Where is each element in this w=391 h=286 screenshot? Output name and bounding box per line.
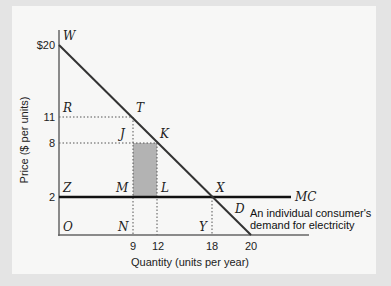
x-axis-label: Quantity (units per year) (131, 256, 249, 268)
point-d: D (234, 202, 245, 216)
x-tick-12: 12 (152, 240, 164, 252)
point-z: Z (62, 181, 72, 195)
point-y: Y (199, 220, 208, 234)
point-x: X (215, 181, 225, 195)
point-n: N (117, 220, 129, 234)
y-tick-2: 2 (49, 191, 55, 203)
point-m: M (115, 181, 129, 195)
x-tick-18: 18 (206, 240, 218, 252)
point-l: L (160, 181, 169, 195)
chart: $20 11 8 2 9 12 18 20 Quantity (units pe… (0, 0, 391, 286)
demand-note-line1: An individual consumer's (250, 207, 372, 219)
demand-note-line2: demand for electricity (250, 219, 355, 231)
point-j: J (117, 127, 126, 141)
demand-line (59, 45, 251, 235)
x-tick-20: 20 (245, 240, 257, 252)
point-k: K (159, 127, 170, 141)
y-tick-8: 8 (49, 137, 55, 149)
x-tick-9: 9 (130, 240, 136, 252)
point-r: R (62, 101, 72, 115)
shaded-area (133, 143, 157, 197)
y-tick-20: $20 (37, 39, 55, 51)
y-tick-11: 11 (44, 111, 55, 123)
point-t: T (136, 101, 145, 115)
mc-label: MC (294, 190, 316, 204)
y-axis-label: Price ($ per units) (18, 97, 30, 184)
point-w: W (63, 29, 77, 43)
point-o: O (63, 220, 73, 234)
